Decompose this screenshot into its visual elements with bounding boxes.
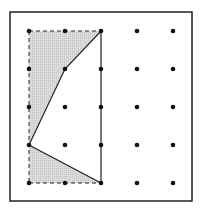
grid-dot: [135, 67, 140, 72]
grid-dot: [99, 181, 104, 186]
grid-dot: [63, 143, 68, 148]
grid-dot: [171, 29, 176, 34]
grid-dot: [63, 105, 68, 110]
grid-dot: [99, 29, 104, 34]
grid-dot: [171, 143, 176, 148]
upper-triangle-region: [29, 31, 101, 145]
grid-dot: [27, 181, 32, 186]
grid-dot: [99, 105, 104, 110]
grid-dot: [135, 105, 140, 110]
grid-dot: [27, 29, 32, 34]
grid-dot: [27, 105, 32, 110]
grid-dot: [27, 143, 32, 148]
grid-dot: [135, 181, 140, 186]
grid-dot: [99, 67, 104, 72]
grid-dot: [171, 181, 176, 186]
geoboard-diagram: [0, 0, 200, 211]
grid-dot: [135, 143, 140, 148]
grid-dot: [135, 29, 140, 34]
grid-dot: [171, 67, 176, 72]
grid-dot: [27, 67, 32, 72]
grid-dot: [171, 105, 176, 110]
grid-dot: [63, 181, 68, 186]
grid-dot: [63, 29, 68, 34]
grid-dot: [63, 67, 68, 72]
grid-dot: [99, 143, 104, 148]
